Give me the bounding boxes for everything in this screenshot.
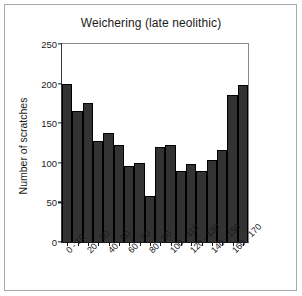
y-axis-tick-mark bbox=[58, 202, 62, 203]
x-axis-tick-mark bbox=[119, 242, 120, 246]
bar bbox=[238, 85, 248, 242]
x-axis-tick-mark bbox=[98, 242, 99, 246]
bar bbox=[93, 141, 103, 242]
y-axis-tick-label: 50 bbox=[22, 197, 62, 208]
y-axis-tick-mark bbox=[58, 162, 62, 163]
bar bbox=[165, 145, 175, 242]
bar bbox=[72, 111, 82, 242]
y-axis-tick-mark bbox=[58, 83, 62, 84]
y-axis-tick-label: 250 bbox=[22, 39, 62, 50]
x-axis-tick-mark bbox=[181, 242, 182, 246]
bar bbox=[155, 147, 165, 242]
bar bbox=[227, 95, 237, 242]
bar bbox=[114, 145, 124, 242]
y-axis-tick-mark bbox=[58, 123, 62, 124]
x-axis-tick-mark bbox=[222, 242, 223, 246]
y-axis-tick-label: 150 bbox=[22, 118, 62, 129]
y-axis-tick-mark bbox=[58, 43, 62, 44]
y-axis-tick-label: 100 bbox=[22, 157, 62, 168]
plot-area: 0501001502002500 - 1020 - 3040 - 5060 - … bbox=[61, 43, 249, 243]
y-axis-tick-label: 0 bbox=[22, 237, 62, 248]
x-axis-tick-mark bbox=[243, 242, 244, 246]
chart-figure: Weichering (late neolithic) Number of sc… bbox=[0, 0, 302, 296]
bar bbox=[83, 103, 93, 242]
y-axis-tick-mark bbox=[58, 241, 62, 242]
x-axis-tick-mark bbox=[202, 242, 203, 246]
x-axis-tick-mark bbox=[160, 242, 161, 246]
bar bbox=[103, 133, 113, 242]
x-axis-tick-mark bbox=[78, 242, 79, 246]
x-axis-tick-mark bbox=[140, 242, 141, 246]
y-axis-tick-label: 200 bbox=[22, 78, 62, 89]
chart-title: Weichering (late neolithic) bbox=[0, 16, 302, 30]
bar bbox=[62, 84, 72, 242]
bar-series bbox=[62, 44, 248, 242]
